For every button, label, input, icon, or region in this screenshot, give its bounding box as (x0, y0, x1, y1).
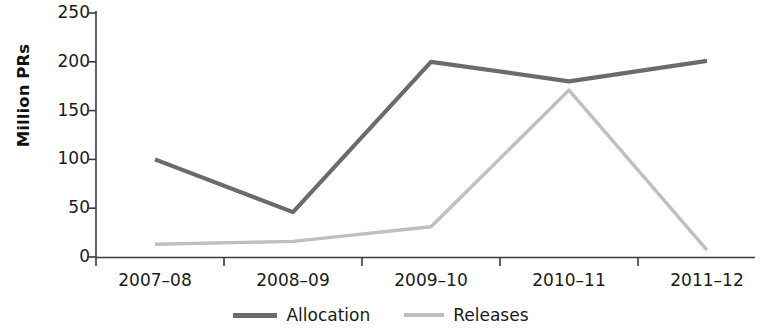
data-series (155, 61, 707, 250)
series-line-allocation (155, 61, 707, 212)
y-axis-ticks (87, 13, 96, 257)
legend-swatch-allocation-icon (233, 313, 277, 318)
series-line-releases (155, 90, 707, 250)
axis-lines (96, 11, 755, 258)
plot-area (0, 0, 762, 334)
legend-item-allocation: Allocation (233, 305, 370, 325)
legend-swatch-releases-icon (404, 313, 444, 317)
legend-item-releases: Releases (404, 305, 528, 325)
line-chart: Million PRs 050100150200250 2007–082008–… (0, 0, 762, 334)
legend-label-allocation: Allocation (286, 305, 370, 325)
x-axis-ticks (96, 257, 638, 266)
chart-legend: Allocation Releases (0, 305, 762, 325)
legend-label-releases: Releases (453, 305, 528, 325)
